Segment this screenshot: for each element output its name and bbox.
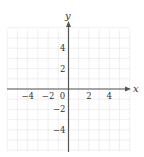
x-axis-label: x (133, 83, 139, 94)
y-axis-label: y (64, 10, 71, 21)
y-axis-arrow-icon (66, 21, 71, 27)
x-tick-label: 4 (107, 91, 112, 101)
y-tick-label: −4 (53, 125, 66, 135)
coordinate-plane: x y −4−202442−2−4 (0, 0, 144, 157)
x-tick-label: −2 (42, 91, 55, 101)
y-tick-label: 2 (60, 64, 65, 74)
x-axis-arrow-icon (125, 87, 131, 92)
y-tick-label: −2 (53, 104, 66, 114)
x-tick-label: 2 (86, 91, 91, 101)
x-tick-label: 0 (60, 91, 65, 101)
x-tick-label: −4 (21, 91, 34, 101)
y-tick-label: 4 (60, 43, 65, 53)
